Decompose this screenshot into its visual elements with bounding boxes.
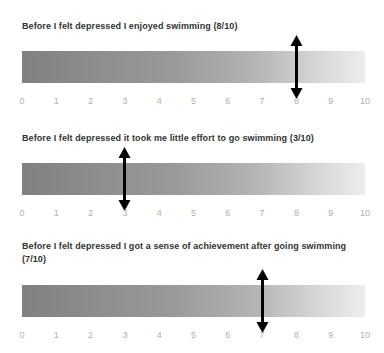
scale-title: Before I felt depressed I got a sense of… [22, 240, 370, 266]
axis-tick-label: 4 [147, 328, 171, 342]
axis-tick-label: 10 [353, 94, 377, 108]
axis-tick-label: 2 [79, 328, 103, 342]
axis-tick-label: 5 [182, 206, 206, 220]
axis-tick-label: 7 [250, 206, 274, 220]
axis-tick-label: 3 [113, 206, 137, 220]
axis-tick-label: 8 [284, 94, 308, 108]
axis-tick-label: 9 [319, 206, 343, 220]
axis-tick-label: 7 [250, 328, 274, 342]
axis-tick-label: 9 [319, 94, 343, 108]
axis-tick-label: 10 [353, 328, 377, 342]
scale-bar[interactable] [22, 51, 365, 83]
axis-tick-label: 7 [250, 94, 274, 108]
axis-tick-label: 3 [113, 328, 137, 342]
axis-tick-label: 8 [284, 328, 308, 342]
axis-tick-label: 6 [216, 328, 240, 342]
axis-tick-label: 2 [79, 94, 103, 108]
gradient-track [22, 163, 365, 195]
axis-tick-label: 3 [113, 94, 137, 108]
axis-tick-label: 5 [182, 94, 206, 108]
axis-tick-label: 0 [10, 94, 34, 108]
axis-tick-label: 6 [216, 94, 240, 108]
vas-scale-group: Before I felt depressed I enjoyed swimmi… [0, 0, 384, 353]
gradient-track [22, 51, 365, 83]
axis-tick-label: 1 [44, 206, 68, 220]
scale-title: Before I felt depressed I enjoyed swimmi… [22, 20, 370, 33]
axis-tick-label: 5 [182, 328, 206, 342]
axis-tick-label: 0 [10, 206, 34, 220]
scale-title: Before I felt depressed it took me littl… [22, 132, 370, 145]
axis-tick-label: 8 [284, 206, 308, 220]
scale-bar[interactable] [22, 163, 365, 195]
axis-tick-label: 4 [147, 94, 171, 108]
scale-axis: 012345678910 [22, 206, 365, 220]
axis-tick-label: 9 [319, 328, 343, 342]
axis-tick-label: 1 [44, 328, 68, 342]
axis-tick-label: 6 [216, 206, 240, 220]
scale-axis: 012345678910 [22, 94, 365, 108]
axis-tick-label: 4 [147, 206, 171, 220]
scale-axis: 012345678910 [22, 328, 365, 342]
axis-tick-label: 1 [44, 94, 68, 108]
axis-tick-label: 2 [79, 206, 103, 220]
gradient-track [22, 285, 365, 317]
axis-tick-label: 0 [10, 328, 34, 342]
axis-tick-label: 10 [353, 206, 377, 220]
scale-bar[interactable] [22, 285, 365, 317]
